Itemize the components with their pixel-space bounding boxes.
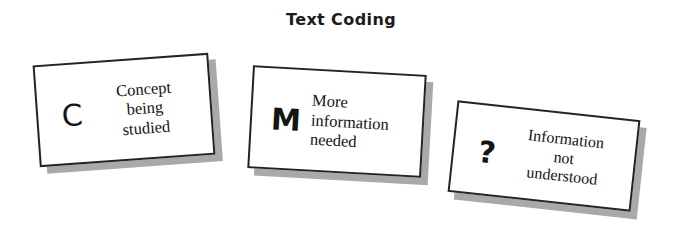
card-face[interactable]: ? Information not understood bbox=[448, 100, 641, 211]
card-code-letter: M bbox=[264, 104, 308, 136]
card-description: More information needed bbox=[305, 91, 415, 155]
card-face[interactable]: C Concept being studied bbox=[33, 53, 216, 167]
page-title: Text Coding bbox=[0, 10, 682, 29]
card-face[interactable]: M More information needed bbox=[247, 65, 426, 178]
card-code-letter: C bbox=[51, 99, 93, 132]
text-coding-diagram: Text Coding C Concept being studied M Mo… bbox=[0, 0, 682, 231]
code-card-not-understood[interactable]: ? Information not understood bbox=[448, 100, 641, 211]
card-description: Information not understood bbox=[503, 124, 628, 193]
code-card-concept[interactable]: C Concept being studied bbox=[33, 53, 216, 167]
card-description: Concept being studied bbox=[90, 75, 206, 141]
code-card-more-information[interactable]: M More information needed bbox=[247, 65, 426, 178]
card-code-letter: ? bbox=[467, 136, 508, 170]
